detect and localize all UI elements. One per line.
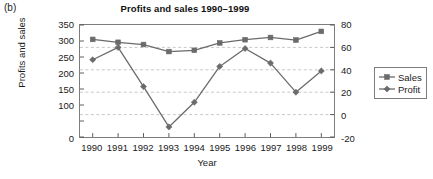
square-marker — [141, 42, 146, 47]
y-axis-right-tick-label: 40 — [341, 64, 352, 75]
y-axis-right-tick-label: -20 — [341, 133, 355, 144]
y-axis-left-tick-label: 350 — [58, 19, 74, 30]
x-axis-tick-label: 1999 — [312, 142, 333, 153]
legend-label: Profit — [398, 84, 420, 95]
square-marker — [217, 41, 222, 46]
diamond-marker-icon — [378, 84, 396, 94]
x-axis-tick-label: 1996 — [235, 142, 256, 153]
y-axis-right-tick-label: 0 — [341, 110, 346, 121]
y-axis-right-tick-label: 60 — [341, 41, 352, 52]
x-axis-tick-label: 1995 — [209, 142, 230, 153]
y-axis-left-tick-label: 200 — [58, 67, 74, 78]
square-marker — [268, 35, 273, 40]
y-axis-left-tick-label: 300 — [58, 35, 74, 46]
series-line-profit — [93, 47, 322, 127]
y-axis-title: Profits and sales — [16, 1, 27, 105]
square-marker — [192, 48, 197, 53]
x-axis-ticks: 1990199119921993199419951996199719981999 — [79, 142, 335, 156]
diamond-marker — [140, 84, 146, 90]
y-axis-right-ticks: -20020406080 — [341, 24, 371, 138]
chart-title: Profits and sales 1990–1999 — [0, 3, 370, 14]
y-axis-right-tick-label: 20 — [341, 87, 352, 98]
x-axis-tick-label: 1998 — [286, 142, 307, 153]
series-line-sales — [93, 31, 322, 51]
chart-figure: (b) Profits and sales 1990–1999 Profits … — [0, 0, 433, 179]
y-axis-left-tick-label: 150 — [58, 84, 74, 95]
y-axis-right-tick-label: 80 — [341, 19, 352, 30]
plot-area — [79, 24, 335, 138]
square-marker — [319, 29, 324, 34]
y-axis-left-tick-label: 100 — [58, 100, 74, 111]
x-axis-tick-label: 1991 — [107, 142, 128, 153]
x-axis-tick-label: 1994 — [184, 142, 205, 153]
legend: SalesProfit — [374, 67, 427, 99]
square-marker-icon — [378, 72, 396, 82]
diamond-marker — [90, 57, 96, 63]
series-lines — [80, 25, 334, 137]
legend-label: Sales — [398, 72, 422, 83]
x-axis-tick-label: 1990 — [81, 142, 102, 153]
y-axis-left-tick-label: 250 — [58, 51, 74, 62]
square-marker — [116, 40, 121, 45]
legend-item-sales[interactable]: Sales — [378, 71, 422, 83]
square-marker — [243, 37, 248, 42]
x-axis-tick-label: 1992 — [132, 142, 153, 153]
diamond-marker — [115, 44, 121, 50]
diamond-marker — [384, 86, 390, 92]
x-axis-title: Year — [79, 157, 335, 168]
x-axis-tick-label: 1997 — [260, 142, 281, 153]
y-axis-left-ticks: 0100150200250300350 — [36, 24, 74, 138]
square-marker — [90, 37, 95, 42]
square-marker — [385, 75, 390, 80]
square-marker — [167, 49, 172, 54]
x-axis-tick-label: 1993 — [158, 142, 179, 153]
y-axis-left-tick-label: 0 — [69, 133, 74, 144]
legend-item-profit[interactable]: Profit — [378, 83, 422, 95]
square-marker — [294, 38, 299, 43]
